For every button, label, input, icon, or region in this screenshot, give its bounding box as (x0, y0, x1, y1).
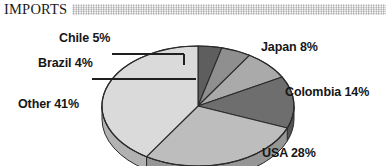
slice-label-chile: Chile 5% (59, 31, 110, 45)
header-decoration-bar (72, 4, 386, 15)
page-title: IMPORTS (4, 1, 67, 18)
slice-label-colombia: Colombia 14% (285, 85, 369, 99)
imports-pie-chart-figure: IMPORTS Brazil 4%Chile 5%Japan 8%Colombi… (0, 0, 389, 166)
slice-label-brazil: Brazil 4% (38, 56, 93, 70)
slice-label-other: Other 41% (18, 97, 79, 111)
slice-label-usa: USA 28% (262, 146, 316, 160)
slice-label-japan: Japan 8% (261, 40, 318, 54)
